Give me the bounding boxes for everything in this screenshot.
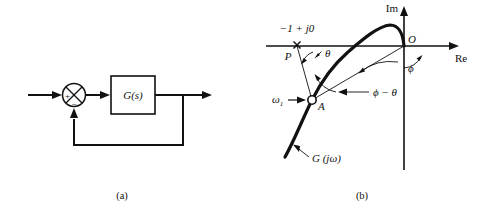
angle-phi-minus-theta-leader [338,89,369,96]
panel-b-nyquist-plot: Re Im O G (jω) [266,2,467,202]
locus-label-leader [293,145,309,158]
origin-label: O [408,33,416,45]
summing-junction-plus-sign: + [65,91,70,101]
input-signal-arrow [28,91,62,99]
point-p-label: P [284,50,292,62]
critical-point-label: −1 + j0 [280,22,315,34]
angle-theta-label: θ [325,47,331,59]
omega-1-label: ω1 [272,93,283,108]
angle-phi-sweep-arc [358,61,398,73]
imaginary-axis-label: Im [386,2,399,14]
locus-label-suffix: ) [336,152,341,165]
locus-label: G (jω) [312,152,341,165]
locus-label-prefix: G (j [312,152,329,165]
figure-container: + − G(s) (a) [0,0,480,219]
angle-phi-minus-theta-label: ϕ − θ [373,86,398,98]
point-a-marker [308,96,316,104]
omega-subscript: 1 [280,100,284,108]
error-signal-arrow [86,91,110,99]
summing-junction: + − [63,84,86,109]
panel-a-block-diagram: + − G(s) (a) [28,76,212,202]
point-a-label: A [317,100,325,112]
transfer-function-block: G(s) [111,76,155,114]
angle-theta-arc [301,52,322,65]
real-axis-label: Re [455,52,467,64]
transfer-function-block-label: G(s) [123,89,143,102]
omega-1-pointer-arrow [288,97,306,104]
panel-a-caption: (a) [116,190,128,202]
figure-svg: + − G(s) (a) [0,0,480,219]
summing-junction-minus-sign: − [71,99,76,109]
panel-b-caption: (b) [356,190,369,202]
vector-p-to-a [297,46,312,100]
angle-phi-label: ϕ [408,62,414,74]
